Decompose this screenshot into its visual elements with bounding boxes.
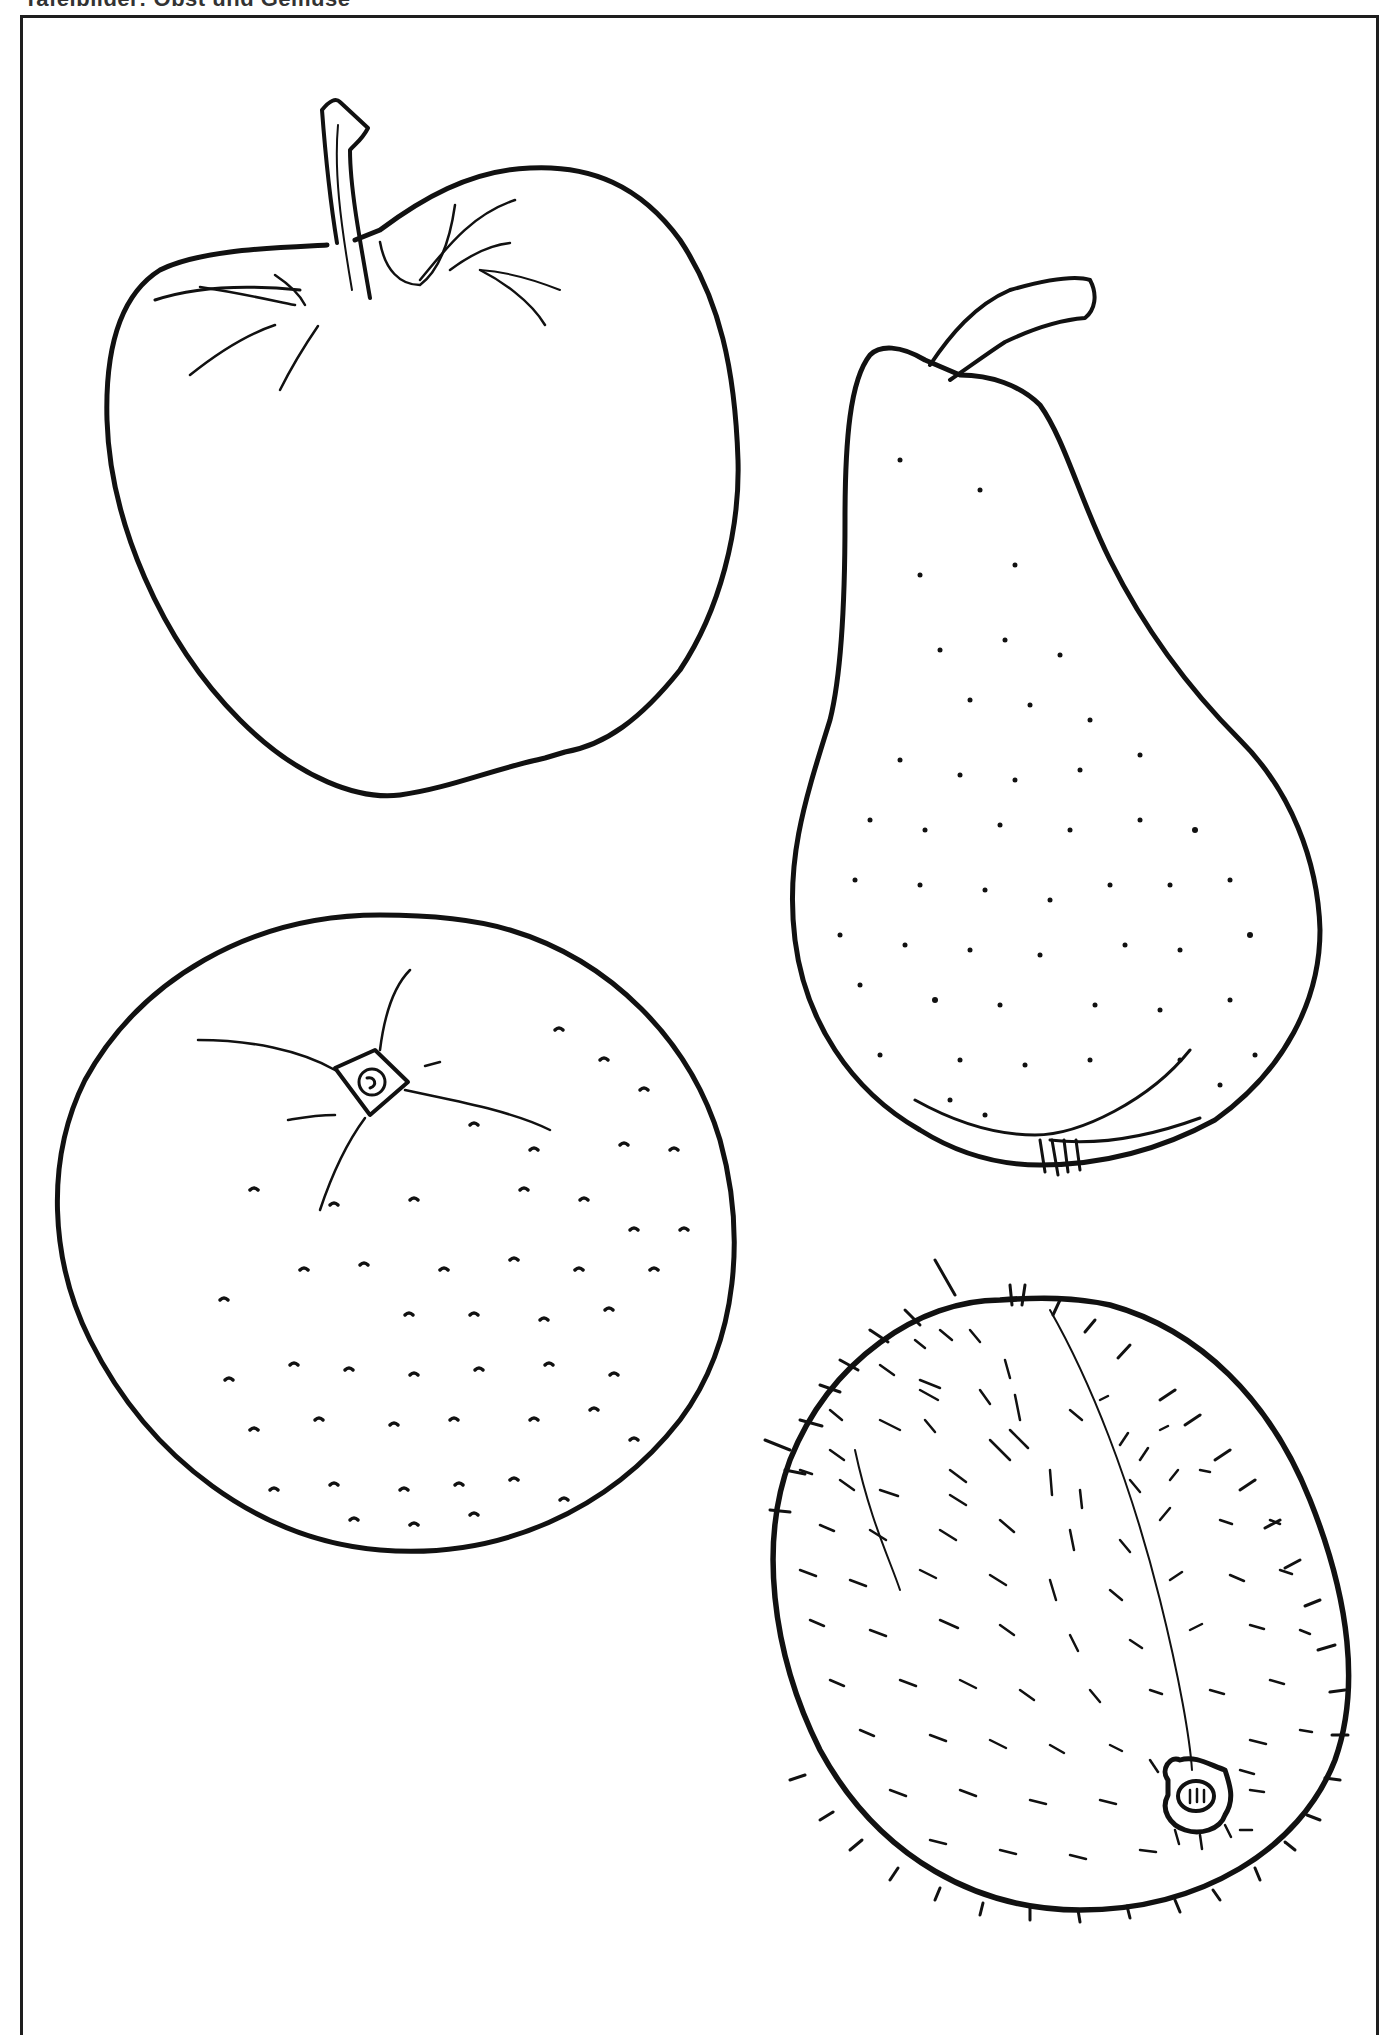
kiwi-hairs <box>765 1260 1348 1922</box>
pear-drawing <box>792 278 1320 1175</box>
apple-drawing <box>107 100 738 796</box>
pear-speckles <box>838 458 1258 1118</box>
orange-drawing <box>57 915 734 1551</box>
kiwi-fuzz <box>800 1330 1312 1859</box>
kiwi-drawing <box>773 1298 1349 1910</box>
orange-dimples <box>220 1028 688 1525</box>
